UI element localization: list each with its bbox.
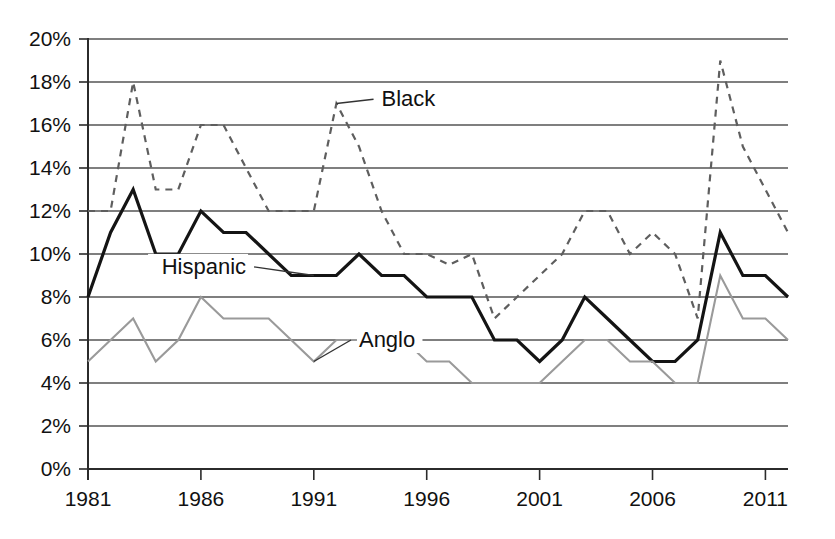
y-axis-tick-label: 6% bbox=[41, 328, 71, 351]
x-axis-tick-labels-group: 1981198619911996200120062011 bbox=[65, 487, 788, 510]
series-line-anglo bbox=[88, 276, 788, 384]
series-label-hispanic: Hispanic bbox=[162, 254, 246, 279]
y-axis-tick-labels-group: 0%2%4%6%8%10%12%14%16%18%20% bbox=[29, 27, 71, 480]
x-axis-tick-label: 1981 bbox=[65, 487, 112, 510]
x-axis-tick-label: 1996 bbox=[403, 487, 450, 510]
series-label-leader-black bbox=[336, 99, 373, 103]
series-label-anglo: Anglo bbox=[359, 327, 415, 352]
x-axis-tick-label: 2011 bbox=[743, 487, 788, 510]
y-axis-tick-label: 0% bbox=[41, 457, 71, 480]
x-axis-tick-label: 2006 bbox=[629, 487, 676, 510]
series-label-black: Black bbox=[382, 86, 437, 111]
x-axis-tick-label: 1986 bbox=[178, 487, 225, 510]
y-axis-tick-label: 12% bbox=[29, 199, 71, 222]
y-axis-tick-label: 8% bbox=[41, 285, 71, 308]
x-axis-tick-label: 2001 bbox=[516, 487, 563, 510]
y-axis-tick-label: 4% bbox=[41, 371, 71, 394]
y-axis-tick-label: 2% bbox=[41, 414, 71, 437]
y-axis-tick-label: 16% bbox=[29, 113, 71, 136]
y-tick-marks-group bbox=[79, 39, 88, 469]
line-chart-svg: 0%2%4%6%8%10%12%14%16%18%20% 19811986199… bbox=[0, 0, 835, 539]
y-axis-tick-label: 10% bbox=[29, 242, 71, 265]
y-axis-tick-label: 18% bbox=[29, 70, 71, 93]
y-axis-tick-label: 20% bbox=[29, 27, 71, 50]
x-tick-marks-group bbox=[88, 469, 765, 480]
y-axis-tick-label: 14% bbox=[29, 156, 71, 179]
chart-container: 0%2%4%6%8%10%12%14%16%18%20% 19811986199… bbox=[0, 0, 835, 539]
x-axis-tick-label: 1991 bbox=[290, 487, 337, 510]
